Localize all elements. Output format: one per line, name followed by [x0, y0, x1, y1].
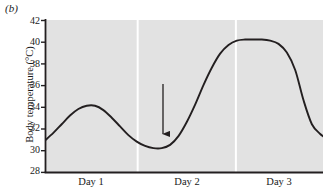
plot-background: [45, 20, 323, 172]
figure-panel-b: (b) Body temperature (°C) 42 40 38 36 34…: [0, 0, 323, 195]
chart-plot-area: [0, 0, 323, 195]
